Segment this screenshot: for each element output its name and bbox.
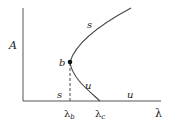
bifurcation-point — [68, 60, 73, 65]
axis-stable-label: s — [57, 89, 62, 100]
y-axis-label: A — [8, 39, 17, 52]
bifurcation-point-label: b — [59, 57, 65, 68]
x-axis-label: λ — [155, 107, 162, 120]
unstable-branch-label: u — [85, 80, 91, 91]
lambda-b-tick-label: λb — [64, 108, 75, 121]
lambda-b-sub: b — [70, 113, 75, 121]
lambda-c-sub: c — [101, 113, 105, 121]
upper-stable-branch — [70, 8, 131, 62]
lambda-c-tick-label: λc — [95, 108, 105, 121]
upper-branch-label: s — [87, 19, 92, 30]
axis-unstable-label: u — [127, 89, 133, 100]
bifurcation-diagram: A λ b s u s u λb λc — [0, 0, 173, 123]
